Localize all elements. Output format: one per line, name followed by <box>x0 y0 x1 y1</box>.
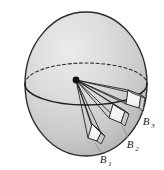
label-b2: B <box>127 138 134 150</box>
label-b1-subscript: 1 <box>108 160 112 168</box>
label-b2-subscript: 2 <box>135 145 139 153</box>
sphere-solid-angle-diagram: B 1 B 2 B 3 <box>0 0 164 170</box>
apex-point <box>73 77 80 84</box>
label-b3-subscript: 3 <box>150 122 155 130</box>
label-b1: B <box>100 153 107 165</box>
figure-container: B 1 B 2 B 3 <box>0 0 164 170</box>
label-b3: B <box>143 115 150 127</box>
